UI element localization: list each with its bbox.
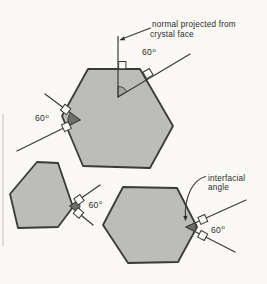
right-angle-square-top-face [119,62,126,69]
angle-value: 60 [35,113,45,123]
normal-label-line2: crystal face [150,30,194,39]
degree-superscript: o [99,199,103,205]
small-hexagonal-crystal [10,162,73,228]
lower-right-hexagonal-crystal [103,187,197,263]
normal-label-arrowhead [119,37,125,41]
angle-label-upper-left: 60o [35,113,49,123]
normal-label-line1: normal projected from [152,20,236,29]
angle-label-interfacial: 60o [211,224,225,234]
degree-superscript: o [45,113,49,119]
angle-label-small-crystal: 60o [89,199,103,209]
angle-value: 60 [89,200,99,210]
right-angle-square-lowerright-upper [198,215,208,225]
crystal-interfacial-angle-diagram: normal projected from crystal face inter… [0,0,267,284]
angle-value: 60 [142,47,152,57]
interfacial-label-line2: angle [208,183,229,192]
right-angle-square-lowerright-lower [198,231,208,241]
angle-value: 60 [211,225,221,235]
interfacial-label-line1: interfacial [208,174,245,183]
angle-label-top-normal: 60o [142,47,156,57]
normal-label-leader-line [123,28,151,39]
degree-superscript: o [152,47,156,53]
degree-superscript: o [221,224,225,230]
